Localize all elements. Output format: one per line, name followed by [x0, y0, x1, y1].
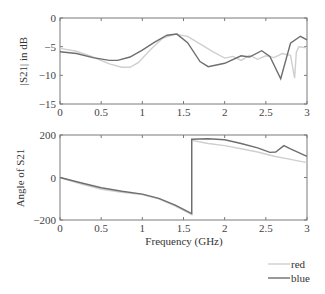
top-plot: 00.511.522.53 0−5−10−15 |S21| in dB: [17, 12, 310, 118]
x-tick-label: 1.5: [177, 222, 191, 234]
x-tick-label: 2.5: [259, 106, 273, 118]
bottom-series-red: [60, 140, 307, 214]
y-tick-label: −15: [39, 98, 57, 110]
x-tick-label: 1.5: [177, 106, 191, 118]
bottom-plot-frame: [60, 135, 307, 220]
x-tick-label: 2.5: [259, 222, 273, 234]
y-tick-label: 200: [40, 129, 57, 141]
bottom-plot: 00.511.522.53 2000−200 Angle of S21 Freq…: [14, 129, 310, 248]
x-tick-label: 0: [57, 106, 63, 118]
bottom-y-ticks: 2000−200: [33, 129, 307, 226]
y-tick-label: 0: [51, 172, 57, 184]
top-series-blue: [60, 34, 307, 79]
x-axis-label: Frequency (GHz): [145, 235, 223, 248]
top-y-axis-label: |S21| in dB: [17, 37, 29, 85]
y-tick-label: −10: [39, 69, 57, 81]
x-tick-label: 1: [140, 222, 146, 234]
x-tick-label: 2: [222, 222, 228, 234]
legend-label-red: red: [291, 258, 306, 270]
top-plot-frame: [60, 18, 307, 104]
x-tick-label: 0: [57, 222, 63, 234]
y-tick-label: −200: [33, 214, 56, 226]
top-y-ticks: 0−5−10−15: [39, 12, 307, 110]
x-tick-label: 0.5: [94, 222, 108, 234]
x-tick-label: 3: [304, 222, 310, 234]
legend-label-blue: blue: [291, 272, 310, 284]
x-tick-label: 3: [304, 106, 310, 118]
bottom-series-blue: [60, 139, 307, 214]
legend: red blue: [268, 258, 310, 284]
top-x-ticks: 00.511.522.53: [57, 18, 310, 118]
x-tick-label: 0.5: [94, 106, 108, 118]
y-tick-label: −5: [44, 41, 56, 53]
bottom-y-axis-label: Angle of S21: [14, 149, 26, 208]
bottom-x-ticks: 00.511.522.53: [57, 135, 310, 234]
x-tick-label: 2: [222, 106, 228, 118]
x-tick-label: 1: [140, 106, 146, 118]
y-tick-label: 0: [51, 12, 57, 24]
figure: 00.511.522.53 0−5−10−15 |S21| in dB 00.5…: [0, 0, 325, 294]
